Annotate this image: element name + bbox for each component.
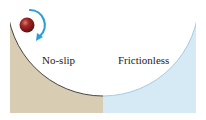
bowl-diagram: No-slip Frictionless: [0, 0, 206, 120]
frictionless-label: Frictionless: [118, 54, 169, 66]
diagram-canvas: [0, 0, 206, 120]
ball: [20, 18, 35, 33]
no-slip-label: No-slip: [42, 54, 75, 66]
